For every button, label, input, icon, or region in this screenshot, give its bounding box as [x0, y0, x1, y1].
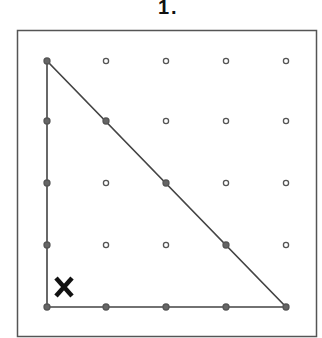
peg-dot	[223, 58, 228, 63]
peg-dot	[223, 180, 228, 185]
peg-dot	[44, 58, 50, 64]
right-angle-marker	[56, 278, 72, 296]
peg-dot	[44, 180, 50, 186]
peg-dot	[103, 58, 108, 63]
peg-dot	[103, 180, 108, 185]
peg-dot	[163, 118, 168, 123]
geoboard	[0, 0, 322, 338]
peg-dot	[103, 304, 109, 310]
peg-dot	[163, 180, 169, 186]
peg-dot	[223, 304, 229, 310]
peg-dot	[103, 118, 109, 124]
peg-dot	[163, 242, 168, 247]
peg-dot	[44, 304, 50, 310]
peg-dot	[283, 118, 288, 123]
peg-dot	[283, 304, 289, 310]
peg-dot	[163, 58, 168, 63]
peg-dot	[283, 180, 288, 185]
peg-dot	[283, 242, 288, 247]
peg-dot	[44, 242, 50, 248]
peg-dot	[103, 242, 108, 247]
peg-dot	[163, 304, 169, 310]
peg-dot	[223, 242, 229, 248]
peg-dot	[44, 118, 50, 124]
peg-dot	[283, 58, 288, 63]
peg-dot	[223, 118, 228, 123]
